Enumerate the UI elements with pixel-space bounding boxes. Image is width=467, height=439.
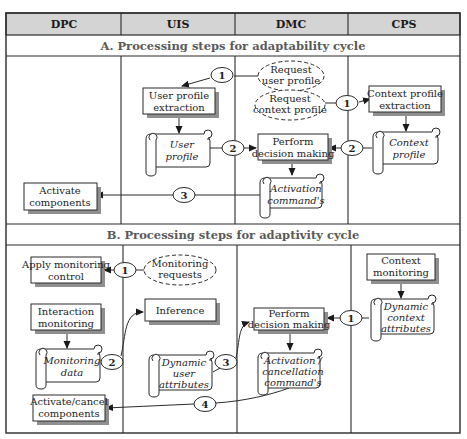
step-number: 1 <box>348 313 355 324</box>
step-number: 1 <box>219 70 226 81</box>
interaction-monitoring-line1: Interaction <box>38 306 95 317</box>
activation-commands-scroll: Activation command's <box>260 174 325 218</box>
request-context-profile-node: Request context profile <box>253 90 327 120</box>
context-profile-line2: profile <box>393 149 426 160</box>
step-marker-b3: 3 <box>215 355 237 370</box>
perform-decision-making-b-line2: decision making <box>248 319 331 330</box>
context-profile-extraction-line2: extraction <box>379 100 431 111</box>
dynamic-user-attributes-scroll: Dynamic user attributes <box>149 351 214 397</box>
dynamic-context-attributes-line3: attributes <box>381 323 431 334</box>
perform-decision-making-box-b: Perform decision making <box>248 308 331 334</box>
perform-decision-making-box-a: Perform decision making <box>252 134 335 164</box>
step-marker-a1-context: 1 <box>336 96 358 111</box>
section-a-title: A. Processing steps for adaptability cyc… <box>100 39 366 53</box>
step-number: 2 <box>230 143 237 154</box>
context-profile-scroll: Context profile <box>373 128 440 174</box>
context-profile-extraction-box: Context profile extraction <box>367 86 445 116</box>
step-number: 4 <box>202 399 209 410</box>
step-marker-b2: 2 <box>101 355 123 370</box>
user-profile-extraction-line2: extraction <box>153 102 205 113</box>
activation-commands-line2: command's <box>267 195 324 206</box>
step-marker-a2-context: 2 <box>341 141 363 156</box>
step-marker-a3: 3 <box>173 188 195 203</box>
monitoring-data-line2: data <box>61 367 83 378</box>
activate-cancel-components-box: Activate/cancel components <box>29 395 109 425</box>
request-user-profile-node: Request user profile <box>258 61 324 91</box>
interaction-monitoring-line2: monitoring <box>38 318 95 329</box>
request-context-profile-line2: context profile <box>253 104 327 115</box>
step-number: 3 <box>181 190 188 201</box>
dynamic-context-attributes-line2: context <box>387 312 426 323</box>
dynamic-context-attributes-scroll: Dynamic context attributes <box>371 295 436 341</box>
perform-decision-making-a-line1: Perform <box>273 136 314 147</box>
dynamic-user-attributes-line2: user <box>173 368 196 379</box>
monitoring-requests-line1: Monitoring <box>152 258 209 269</box>
perform-decision-making-b-line1: Perform <box>269 308 310 319</box>
activate-components-line2: components <box>29 197 90 208</box>
user-profile-line1: User <box>170 139 195 150</box>
activation-cancellation-line2: cancellation <box>262 366 324 377</box>
step-marker-b1-monitoring: 1 <box>114 263 136 278</box>
column-header-dmc: DMC <box>276 18 307 31</box>
request-user-profile-line1: Request <box>270 64 311 75</box>
context-monitoring-line1: Context <box>381 255 421 266</box>
user-profile-extraction-line1: User profile <box>149 90 210 101</box>
activation-commands-line1: Activation <box>269 183 321 194</box>
apply-monitoring-control-line1: Apply monitoring <box>21 259 111 270</box>
step-number: 3 <box>223 357 230 368</box>
inference-box: Inference <box>145 299 220 325</box>
dynamic-context-attributes-line1: Dynamic <box>383 301 429 312</box>
request-context-profile-line1: Request <box>269 93 310 104</box>
user-profile-extraction-box: User profile extraction <box>143 88 219 118</box>
dynamic-user-attributes-line3: attributes <box>159 379 209 390</box>
activate-components-box: Activate components <box>24 183 101 214</box>
step-number: 2 <box>109 357 116 368</box>
step-marker-a2-user: 2 <box>222 141 244 156</box>
column-header-uis: UIS <box>167 18 190 31</box>
apply-monitoring-control-line2: control <box>48 271 84 282</box>
activation-cancellation-commands-scroll: Activation / cancellation command's <box>258 349 324 395</box>
process-diagram: DPC UIS DMC CPS A. Processing steps for … <box>0 0 467 439</box>
context-monitoring-box: Context monitoring <box>367 254 439 284</box>
activate-cancel-components-line1: Activate/cancel <box>29 396 108 407</box>
context-monitoring-line2: monitoring <box>373 267 430 278</box>
monitoring-data-line1: Monitoring <box>43 355 101 366</box>
apply-monitoring-control-box: Apply monitoring control <box>21 257 111 287</box>
column-header-dpc: DPC <box>51 18 78 31</box>
step-number: 1 <box>122 265 129 276</box>
monitoring-data-scroll: Monitoring data <box>36 345 102 389</box>
step-number: 1 <box>344 98 351 109</box>
step-marker-b4: 4 <box>194 397 216 412</box>
monitoring-requests-node: Monitoring requests <box>144 255 216 285</box>
step-marker-a1-user: 1 <box>211 68 233 83</box>
user-profile-scroll: User profile <box>146 130 212 176</box>
request-user-profile-line2: user profile <box>262 75 321 86</box>
monitoring-requests-line2: requests <box>158 269 202 280</box>
activation-cancellation-line1: Activation / <box>263 355 324 366</box>
dynamic-user-attributes-line1: Dynamic <box>161 357 207 368</box>
activation-cancellation-line3: command's <box>264 377 321 388</box>
step-number: 2 <box>349 143 356 154</box>
step-marker-b1-context: 1 <box>340 311 362 326</box>
section-b-title: B. Processing steps for adaptivity cycle <box>107 228 360 242</box>
activate-cancel-components-line2: components <box>38 408 99 419</box>
column-header-cps: CPS <box>392 18 417 31</box>
interaction-monitoring-box: Interaction monitoring <box>31 304 105 334</box>
inference-label: Inference <box>156 305 205 316</box>
user-profile-line2: profile <box>166 151 199 162</box>
perform-decision-making-a-line2: decision making <box>252 148 335 159</box>
context-profile-line1: Context <box>389 137 430 148</box>
activate-components-line1: Activate <box>38 185 81 196</box>
context-profile-extraction-line1: Context profile <box>367 88 443 99</box>
